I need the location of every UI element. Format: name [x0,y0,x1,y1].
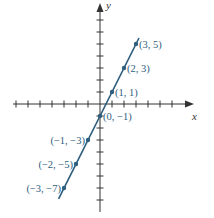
point-label: (−2, −5) [38,159,73,171]
data-point: (1, 1) [110,87,138,99]
y-axis-label: y [105,0,111,11]
data-point: (0, −1) [98,111,132,123]
x-axis-label: x [191,110,197,122]
line-graph: (−3, −7)(−2, −5)(−1, −3)(0, −1)(1, 1)(2,… [0,0,214,218]
point-marker [98,114,102,118]
point-marker [74,162,78,166]
point-label: (−3, −7) [26,183,61,195]
point-marker [62,186,66,190]
point-label: (1, 1) [115,87,138,99]
data-points: (−3, −7)(−2, −5)(−1, −3)(0, −1)(1, 1)(2,… [26,39,162,195]
point-label: (3, 5) [139,39,162,51]
x-axis-arrow-icon [185,101,194,108]
data-point: (−2, −5) [38,159,78,171]
data-point: (3, 5) [134,39,162,51]
point-label: (−1, −3) [50,135,85,147]
point-marker [86,138,90,142]
data-point: (−1, −3) [50,135,90,147]
point-label: (2, 3) [127,63,150,75]
data-point: (2, 3) [122,63,150,75]
point-marker [134,42,138,46]
point-marker [110,90,114,94]
point-marker [122,66,126,70]
data-point: (−3, −7) [26,183,66,195]
y-axis-arrow-icon [97,3,104,12]
point-label: (0, −1) [103,111,132,123]
